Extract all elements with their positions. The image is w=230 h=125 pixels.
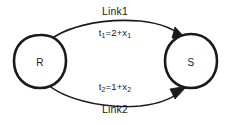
link2-formula-label: t2=1+x2 <box>80 81 150 92</box>
link2-formula-variable-sub: 2 <box>127 86 131 93</box>
link1-name-label: Link1 <box>83 5 147 17</box>
link1-formula-variable-sub: 1 <box>127 32 131 39</box>
link2-name-label: Link2 <box>83 103 147 115</box>
node-label-r: R <box>33 57 47 68</box>
node-label-s: S <box>184 57 198 68</box>
link1-formula-label: t1=2+x1 <box>80 27 150 38</box>
link1-formula-lhs-sub: 1 <box>102 32 106 39</box>
link2-formula-lhs-sub: 2 <box>102 86 106 93</box>
diagram-canvas: R S Link1 t1=2+x1 t2=1+x2 Link2 <box>0 0 230 125</box>
